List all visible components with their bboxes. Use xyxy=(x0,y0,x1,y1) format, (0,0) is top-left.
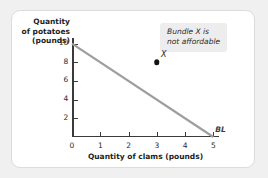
figure-card: Quantity of potatoes (pounds) Bundle X i… xyxy=(11,10,255,168)
x-tick-label: 0 xyxy=(70,141,75,150)
y-axis-label-line-2: of potatoes xyxy=(18,27,70,37)
data-point-x-marker xyxy=(154,60,160,66)
y-tick-label: 10 xyxy=(59,38,68,47)
x-tick-label: 4 xyxy=(183,141,188,150)
data-point-x-label: X xyxy=(161,50,166,59)
budget-line-label: BL xyxy=(215,125,226,134)
y-tick-label: 4 xyxy=(63,94,68,103)
y-tick-label: 2 xyxy=(63,113,68,122)
y-tick-label: 6 xyxy=(63,75,68,84)
x-tick-label: 2 xyxy=(126,141,131,150)
budget-line-svg xyxy=(72,38,219,137)
x-tick-label: 3 xyxy=(154,141,159,150)
budget-line-bl xyxy=(72,44,213,137)
x-tick-label: 1 xyxy=(98,141,103,150)
annotation-line-1: Bundle X is xyxy=(167,27,220,37)
plot-area: 246810 012345 X BL xyxy=(72,38,219,137)
x-axis-label: Quantity of clams (pounds) xyxy=(72,152,219,161)
y-tick-label: 8 xyxy=(63,57,68,66)
x-tick-label: 5 xyxy=(211,141,216,150)
y-axis-label-line-1: Quantity xyxy=(18,17,70,27)
